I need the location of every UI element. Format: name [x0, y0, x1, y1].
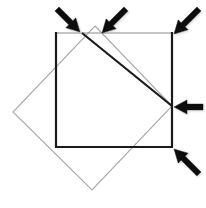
figure-svg — [0, 0, 206, 208]
geometry-figure-canvas — [0, 0, 206, 208]
